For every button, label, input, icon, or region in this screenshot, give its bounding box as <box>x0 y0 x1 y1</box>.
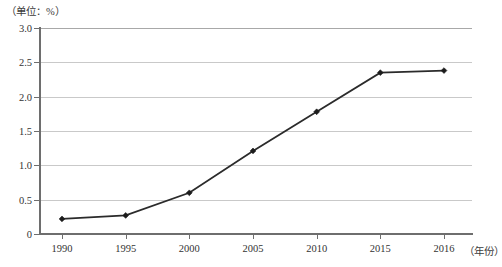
data-marker <box>123 213 129 219</box>
x-axis-caption: （年份） <box>464 243 502 258</box>
data-line <box>62 71 444 219</box>
data-marker <box>441 68 447 74</box>
data-marker <box>59 216 65 222</box>
data-marker-group <box>59 68 447 222</box>
